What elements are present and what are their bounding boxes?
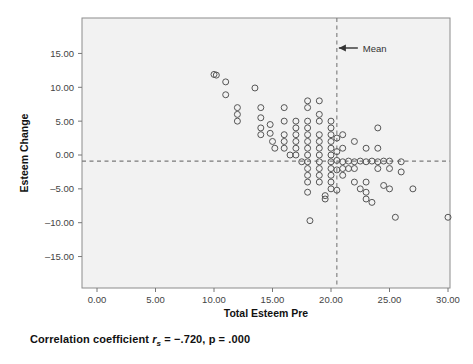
plot-panel <box>82 18 450 288</box>
x-axis-tick-label: 30.00 <box>436 294 460 305</box>
x-axis-tick-label: 15.00 <box>261 294 285 305</box>
x-axis-tick-label: 0.00 <box>88 294 107 305</box>
x-axis-tick-label: 5.00 <box>146 294 165 305</box>
y-axis-tick-label: –15.00 <box>45 251 74 262</box>
caption-statistic-value: = −.720, p = .000 <box>161 333 250 345</box>
y-axis-tick-label: –10.00 <box>45 217 74 228</box>
y-axis-tick-label: 10.00 <box>50 82 74 93</box>
x-axis-title: Total Esteem Pre <box>224 307 309 319</box>
y-axis-tick-label: 0.00 <box>56 149 75 160</box>
caption-prefix: Correlation coefficient <box>30 333 152 345</box>
y-axis-tick-label: 5.00 <box>56 116 75 127</box>
x-axis-tick-label: 25.00 <box>378 294 402 305</box>
x-axis-tick-label: 20.00 <box>319 294 343 305</box>
mean-annotation-label: Mean <box>363 43 387 54</box>
y-axis-tick-label: –5.00 <box>50 183 74 194</box>
y-axis-tick-label: 15.00 <box>50 48 74 59</box>
y-axis-title: Esteem Change <box>18 113 30 192</box>
scatter-plot-canvas: 15.0010.005.000.00–5.00–10.00–15.000.005… <box>0 0 473 364</box>
x-axis-tick-label: 10.00 <box>202 294 226 305</box>
figure-caption: Correlation coefficient rs = −.720, p = … <box>30 333 250 348</box>
scatter-plot-figure: 15.0010.005.000.00–5.00–10.00–15.000.005… <box>0 0 473 364</box>
